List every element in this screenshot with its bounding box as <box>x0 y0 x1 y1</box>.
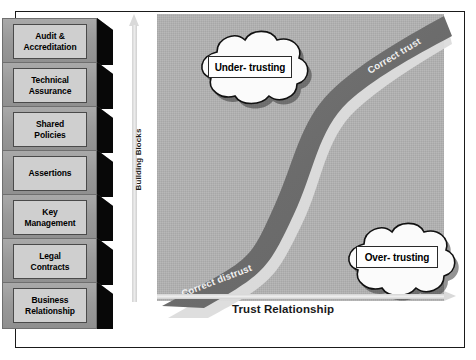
block-label-line1: Business <box>32 295 69 305</box>
y-axis-label: Building Blocks <box>134 125 143 195</box>
block-label-line1: Assertions <box>29 168 72 179</box>
block-audit-accreditation[interactable]: Audit & Accreditation <box>2 18 97 65</box>
x-arrow-shaft <box>157 294 445 299</box>
block-legal-contracts[interactable]: Legal Contracts <box>2 238 97 285</box>
cloud-label-box: Over- trusting <box>356 246 438 268</box>
block-label: Shared Policies <box>13 112 87 147</box>
block-business-relationship[interactable]: Business Relationship <box>2 282 97 329</box>
block-label: Assertions <box>13 156 87 191</box>
block-label: Business Relationship <box>13 288 87 323</box>
block-technical-assurance[interactable]: Technical Assurance <box>2 62 97 109</box>
block-label-line1: Legal <box>39 251 61 261</box>
block-label-line1: Shared <box>36 119 64 129</box>
block-label: Audit & Accreditation <box>13 24 87 59</box>
block-label-line2: Management <box>25 218 76 228</box>
block-side-face <box>97 282 113 329</box>
trust-relationship-diagram: Audit & Accreditation Technical Assuranc… <box>0 0 476 360</box>
block-assertions[interactable]: Assertions <box>2 150 97 197</box>
block-label-line1: Audit & <box>35 31 65 41</box>
block-side-face <box>97 106 113 153</box>
block-side-face <box>97 194 113 241</box>
block-label-line1: Technical <box>31 75 69 85</box>
block-label-line1: Key <box>42 207 57 217</box>
block-label: Key Management <box>13 200 87 235</box>
block-label: Legal Contracts <box>13 244 87 279</box>
block-shared-policies[interactable]: Shared Policies <box>2 106 97 153</box>
cloud-label: Under- trusting <box>215 62 286 73</box>
block-label: Technical Assurance <box>13 68 87 103</box>
block-label-line2: Accreditation <box>23 42 76 52</box>
x-arrow-head <box>444 291 456 301</box>
cloud-label: Over- trusting <box>365 252 430 263</box>
block-label-line2: Contracts <box>31 262 70 272</box>
block-side-face <box>97 18 113 65</box>
block-key-management[interactable]: Key Management <box>2 194 97 241</box>
building-blocks-stack: Audit & Accreditation Technical Assuranc… <box>0 0 119 325</box>
cloud-under-trusting: Under- trusting <box>183 24 311 110</box>
block-label-line2: Relationship <box>25 306 75 316</box>
block-label-line2: Policies <box>34 130 65 140</box>
block-side-face <box>97 62 113 109</box>
cloud-label-box: Under- trusting <box>208 56 292 78</box>
block-label-line2: Assurance <box>29 86 72 96</box>
block-side-face <box>97 150 113 197</box>
x-axis-right-arrow-icon <box>157 291 456 302</box>
block-side-face <box>97 238 113 285</box>
cloud-over-trusting: Over- trusting <box>330 216 458 302</box>
x-axis-label: Trust Relationship <box>232 303 334 315</box>
